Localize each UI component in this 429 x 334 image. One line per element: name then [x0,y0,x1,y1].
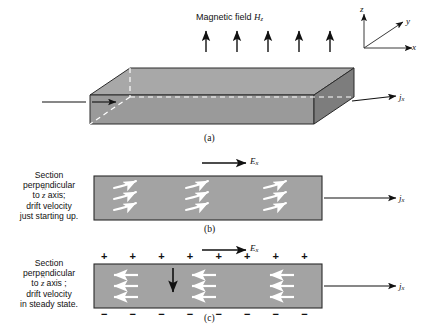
charge-plus: + [301,251,307,262]
slab-front-face [90,95,314,124]
axis-triad [364,14,412,48]
charge-plus: + [244,251,250,262]
slab-3d [90,68,354,124]
charge-plus: + [215,251,221,262]
charge-minus: − [130,309,136,320]
charge-plus: + [101,251,107,262]
charge-minus: − [215,309,221,320]
slab-section-b [94,176,322,220]
charge-minus: − [187,309,193,320]
hall-effect-figure: Magnetic field Hz z y x jx (a) Ex jx Sec… [0,0,429,334]
charge-minus: − [273,309,279,320]
figure-graphics [0,0,429,334]
charge-minus: − [158,309,164,320]
charge-plus: + [273,251,279,262]
charge-minus: − [301,309,307,320]
charge-plus: + [187,251,193,262]
charge-plus: + [158,251,164,262]
panel-b [94,163,396,220]
charge-plus: + [130,251,136,262]
charge-minus: − [101,309,107,320]
charge-minus: − [244,309,250,320]
magnetic-field-arrows [206,31,330,52]
